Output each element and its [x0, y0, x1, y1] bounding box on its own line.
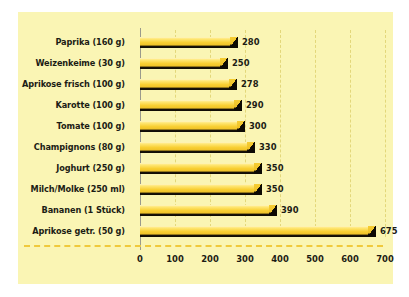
baseline-dashed-rule	[24, 245, 383, 247]
category-label: Milch/Molke (250 ml)	[18, 179, 125, 200]
bar-row: Paprika (160 g) 280	[18, 32, 393, 53]
bar-end-cap	[247, 142, 255, 153]
x-tick-label: 200	[193, 252, 227, 266]
bar-value-label: 300	[249, 116, 266, 137]
category-label: Bananen (1 Stück)	[18, 200, 125, 221]
bar-end-cap	[368, 226, 376, 237]
category-label: Karotte (100 g)	[18, 95, 125, 116]
bar-fill	[140, 142, 255, 153]
bar-joghurt	[140, 163, 262, 174]
category-label: Joghurt (250 g)	[18, 158, 125, 179]
bar-row: Milch/Molke (250 ml) 350	[18, 179, 393, 200]
bar-value-label: 290	[246, 95, 263, 116]
bar-fill	[140, 205, 277, 216]
category-label: Aprikose frisch (100 g)	[18, 74, 125, 95]
bar-value-label: 390	[281, 200, 298, 221]
bar-end-cap	[237, 121, 245, 132]
bar-row: Karotte (100 g) 290	[18, 95, 393, 116]
category-label: Paprika (160 g)	[18, 32, 125, 53]
bar-row: Weizenkeime (30 g) 250	[18, 53, 393, 74]
bar-fill	[140, 37, 238, 48]
bar-end-cap	[229, 79, 237, 90]
bar-value-label: 250	[232, 53, 249, 74]
bar-tomate	[140, 121, 245, 132]
x-tick-label: 300	[228, 252, 262, 266]
bar-end-cap	[254, 184, 262, 195]
bar-value-label: 278	[241, 74, 258, 95]
bar-chart-figure: Paprika (160 g) 280 Weizenkeime (30 g) 2…	[18, 12, 393, 284]
category-label: Champignons (80 g)	[18, 137, 125, 158]
x-tick-label: 500	[298, 252, 332, 266]
bar-fill	[140, 100, 242, 111]
bar-end-cap	[220, 58, 228, 69]
bar-row: Aprikose getr. (50 g) 675	[18, 221, 393, 242]
bar-fill	[140, 121, 245, 132]
bar-fill	[140, 184, 262, 195]
bar-champignons	[140, 142, 255, 153]
bar-row: Champignons (80 g) 330	[18, 137, 393, 158]
bar-value-label: 280	[242, 32, 259, 53]
category-label: Weizenkeime (30 g)	[18, 53, 125, 74]
bar-karotte	[140, 100, 242, 111]
bar-row: Tomate (100 g) 300	[18, 116, 393, 137]
category-label: Aprikose getr. (50 g)	[18, 221, 125, 242]
bar-milch-molke	[140, 184, 262, 195]
bar-aprikose-frisch	[140, 79, 237, 90]
bar-value-label: 330	[259, 137, 276, 158]
bar-bananen	[140, 205, 277, 216]
bar-value-label: 675	[380, 221, 397, 242]
category-label: Tomate (100 g)	[18, 116, 125, 137]
bar-fill	[140, 79, 237, 90]
bar-fill	[140, 163, 262, 174]
x-tick-label: 700	[368, 252, 402, 266]
bar-end-cap	[269, 205, 277, 216]
bar-value-label: 350	[266, 179, 283, 200]
bar-end-cap	[230, 37, 238, 48]
bar-paprika	[140, 37, 238, 48]
bar-row: Aprikose frisch (100 g) 278	[18, 74, 393, 95]
bar-end-cap	[254, 163, 262, 174]
bar-weizenkeime	[140, 58, 228, 69]
bar-fill	[140, 58, 228, 69]
x-axis: 0 100 200 300 400 500 600 700	[18, 252, 393, 266]
bar-end-cap	[234, 100, 242, 111]
x-tick-label: 100	[158, 252, 192, 266]
bar-row: Bananen (1 Stück) 390	[18, 200, 393, 221]
bar-value-label: 350	[266, 158, 283, 179]
x-tick-label: 400	[263, 252, 297, 266]
plot-area: Paprika (160 g) 280 Weizenkeime (30 g) 2…	[18, 12, 393, 284]
bar-row: Joghurt (250 g) 350	[18, 158, 393, 179]
x-tick-label: 0	[123, 252, 157, 266]
x-tick-label: 600	[333, 252, 367, 266]
bar-aprikose-getrocknet	[140, 226, 376, 237]
bar-fill	[140, 226, 376, 237]
